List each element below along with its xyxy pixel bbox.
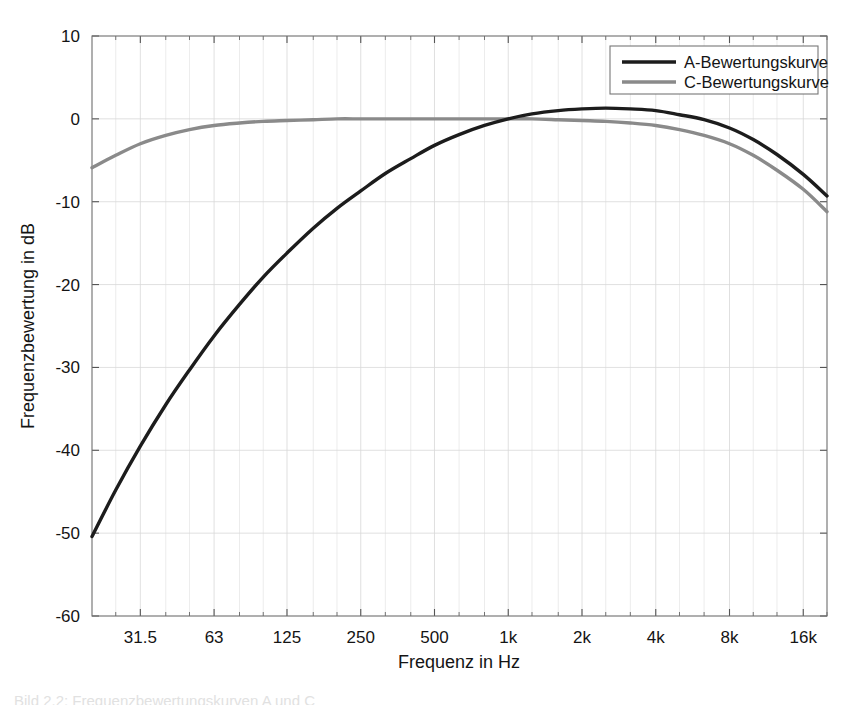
data-series-layer	[92, 108, 827, 536]
x-axis-tick-labels: 31.5631252505001k2k4k8k16k	[124, 628, 818, 647]
minor-vertical-gridlines	[116, 36, 777, 616]
x-tick-label-3: 250	[347, 628, 375, 647]
y-axis-tick-labels: 100-10-20-30-40-50-60	[55, 27, 80, 626]
y-tick-label-3: -20	[55, 276, 80, 295]
x-tick-label-7: 4k	[647, 628, 665, 647]
legend-label-a: A-Bewertungskurve	[684, 53, 828, 71]
x-tick-label-2: 125	[273, 628, 301, 647]
chart-legend[interactable]: A-Bewertungskurve C-Bewertungskurve	[610, 46, 829, 94]
y-tick-label-6: -50	[55, 524, 80, 543]
x-tick-label-1: 63	[205, 628, 224, 647]
caption-fragment: Bild 2.2: Frequenzbewertungskurven A und…	[14, 692, 315, 705]
horizontal-gridlines	[92, 119, 827, 533]
x-axis-title: Frequenz in Hz	[398, 652, 520, 672]
x-tick-label-8: 8k	[721, 628, 739, 647]
x-tick-label-9: 16k	[790, 628, 818, 647]
figure-container: 31.5631252505001k2k4k8k16k 100-10-20-30-…	[0, 0, 859, 705]
x-tick-label-4: 500	[420, 628, 448, 647]
frequency-weighting-chart: 31.5631252505001k2k4k8k16k 100-10-20-30-…	[0, 0, 859, 705]
y-tick-label-2: -10	[55, 193, 80, 212]
x-tick-label-0: 31.5	[124, 628, 157, 647]
y-tick-label-5: -40	[55, 441, 80, 460]
legend-label-c: C-Bewertungskurve	[684, 73, 829, 91]
y-tick-label-0: 10	[61, 27, 80, 46]
x-tick-label-5: 1k	[499, 628, 517, 647]
y-tick-label-4: -30	[55, 358, 80, 377]
y-tick-label-1: 0	[71, 110, 80, 129]
y-axis-title: Frequenzbewertung in dB	[18, 223, 38, 429]
x-tick-label-6: 2k	[573, 628, 591, 647]
series-line-a	[92, 108, 827, 536]
y-tick-label-7: -60	[55, 607, 80, 626]
